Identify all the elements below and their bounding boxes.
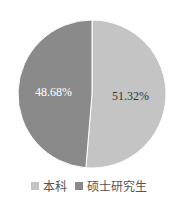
legend-swatch-masters: [75, 182, 83, 190]
pie-plot-area: 51.32%48.68%: [0, 0, 178, 201]
legend-item-masters: 硕士研究生: [75, 177, 147, 195]
legend-label-undergraduate: 本科: [43, 177, 67, 195]
slice-masters-label: 48.68%: [35, 85, 72, 99]
chart-legend: 本科 硕士研究生: [0, 177, 178, 195]
pie-chart: 51.32%48.68% 本科 硕士研究生: [0, 0, 178, 201]
legend-label-masters: 硕士研究生: [87, 177, 147, 195]
legend-item-undergraduate: 本科: [31, 177, 67, 195]
legend-swatch-undergraduate: [31, 182, 39, 190]
slice-undergraduate-label: 51.32%: [112, 89, 149, 103]
